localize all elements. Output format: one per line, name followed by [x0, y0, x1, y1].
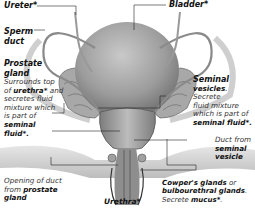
label-sperm-duct: Sperm duct: [4, 27, 33, 46]
label-cowpers-glands: Cowper's glands or bulbourethral glands.…: [162, 179, 255, 204]
prostate-shape: [100, 108, 156, 150]
label-prostate-opening: Opening of duct from prostate gland: [4, 177, 74, 203]
label-seminal-vesicles: Seminal vesicles. Secrete fluid mixture …: [193, 75, 255, 127]
label-ureter: Ureter*: [4, 2, 37, 11]
label-prostate-gland: Prostate gland Surrounds top of urethra*…: [4, 59, 76, 138]
label-bladder: Bladder*: [169, 1, 208, 10]
label-vesicle-duct: Duct from seminal vesicle: [215, 136, 255, 162]
label-urethra: Urethra*: [104, 198, 140, 207]
